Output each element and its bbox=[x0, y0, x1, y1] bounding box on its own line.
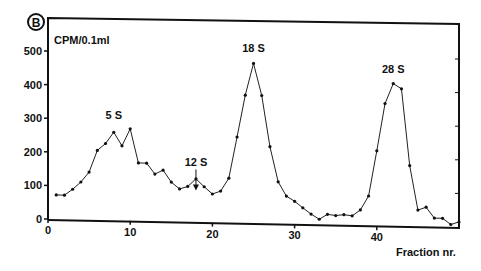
y-tick-label: 300 bbox=[24, 112, 42, 124]
data-point bbox=[441, 217, 444, 220]
data-point bbox=[425, 206, 428, 209]
y-axis-ticks: 0100200300400500 bbox=[24, 45, 48, 225]
data-point bbox=[235, 135, 238, 138]
y-tick-label: 200 bbox=[24, 146, 42, 158]
sedimentation-profile-chart: B CPM/0.1ml Fraction nr. 010020030040050… bbox=[0, 0, 481, 271]
data-point bbox=[301, 206, 304, 209]
data-point bbox=[367, 194, 370, 197]
data-point bbox=[457, 220, 460, 223]
y-tick-label: 500 bbox=[24, 45, 42, 57]
data-point bbox=[252, 62, 255, 65]
x-tick-label: 0 bbox=[45, 224, 51, 236]
data-point bbox=[342, 213, 345, 216]
x-tick-label: 40 bbox=[371, 231, 383, 243]
data-point bbox=[408, 164, 411, 167]
data-point bbox=[244, 94, 247, 97]
x-tick-label: 30 bbox=[288, 229, 300, 241]
data-point bbox=[145, 162, 148, 165]
data-point bbox=[227, 177, 230, 180]
data-point bbox=[79, 180, 82, 183]
data-point bbox=[326, 213, 329, 216]
data-point bbox=[359, 208, 362, 211]
data-point bbox=[161, 169, 164, 172]
x-tick-label: 10 bbox=[124, 226, 136, 238]
series-line bbox=[56, 63, 459, 224]
peak-label: 18 S bbox=[242, 42, 265, 54]
data-point bbox=[63, 194, 66, 197]
data-point bbox=[293, 200, 296, 203]
data-point bbox=[351, 214, 354, 217]
data-point bbox=[178, 187, 181, 190]
data-point bbox=[203, 185, 206, 188]
data-point bbox=[55, 193, 58, 196]
peak-label: 5 S bbox=[106, 109, 123, 121]
data-point bbox=[129, 127, 132, 130]
data-point bbox=[268, 145, 271, 148]
data-point bbox=[211, 192, 214, 195]
data-point bbox=[449, 223, 452, 226]
data-point bbox=[186, 185, 189, 188]
data-point bbox=[96, 149, 99, 152]
data-point bbox=[277, 180, 280, 183]
data-point bbox=[219, 190, 222, 193]
y-tick-label: 100 bbox=[24, 179, 42, 191]
data-point bbox=[392, 82, 395, 85]
data-point bbox=[383, 102, 386, 105]
data-point bbox=[88, 170, 91, 173]
y-axis-title: CPM/0.1ml bbox=[54, 34, 110, 46]
y-tick-label: 0 bbox=[36, 213, 42, 225]
data-point bbox=[260, 94, 263, 97]
x-tick-label: 20 bbox=[206, 228, 218, 240]
data-point bbox=[433, 217, 436, 220]
data-point bbox=[71, 188, 74, 191]
data-point bbox=[285, 194, 288, 197]
panel-letter: B bbox=[32, 16, 41, 30]
data-point bbox=[170, 180, 173, 183]
y-tick-label: 400 bbox=[24, 79, 42, 91]
data-series bbox=[55, 62, 461, 226]
data-point bbox=[104, 142, 107, 145]
peak-label: 28 S bbox=[382, 63, 405, 75]
x-axis-title: Fraction nr. bbox=[396, 246, 456, 258]
data-point bbox=[375, 149, 378, 152]
data-point bbox=[137, 161, 140, 164]
data-point bbox=[334, 214, 337, 217]
data-point bbox=[112, 131, 115, 134]
panel-label: B bbox=[28, 14, 44, 30]
data-point bbox=[416, 208, 419, 211]
data-point bbox=[318, 218, 321, 221]
data-point bbox=[120, 144, 123, 147]
arrow-head-icon bbox=[193, 184, 199, 190]
data-point bbox=[309, 212, 312, 215]
data-point bbox=[153, 172, 156, 175]
data-point bbox=[400, 87, 403, 90]
peak-label: 12 S bbox=[185, 156, 208, 168]
